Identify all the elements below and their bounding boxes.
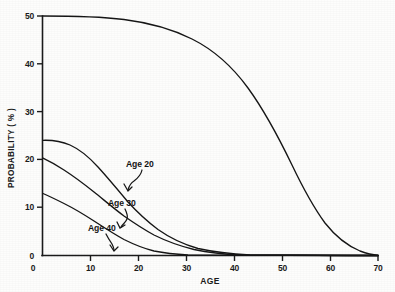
age-40-leader-line xyxy=(106,234,114,250)
y-axis-tick-labels: 50 40 30 20 10 0 xyxy=(25,11,35,261)
curve-unlabeled-top xyxy=(43,16,378,255)
chart-figure: 50 40 30 20 10 0 0 10 20 30 40 50 60 70 xyxy=(0,0,395,292)
x-tick-label-40: 40 xyxy=(230,263,240,273)
x-tick-label-60: 60 xyxy=(326,263,336,273)
x-tick-label-30: 30 xyxy=(182,263,192,273)
x-tick-label-70: 70 xyxy=(373,263,383,273)
x-axis-title: AGE xyxy=(200,276,220,286)
y-tick-label-30: 30 xyxy=(25,107,35,117)
x-axis-ticks xyxy=(91,256,379,262)
y-tick-label-50: 50 xyxy=(25,11,35,21)
data-curves xyxy=(43,16,378,256)
age-20-leader-line xyxy=(128,170,142,190)
curve-age-30 xyxy=(43,158,378,255)
y-axis-ticks xyxy=(37,16,43,207)
series-label-age-30: Age 30 xyxy=(108,198,136,208)
x-tick-label-0: 0 xyxy=(31,263,36,273)
x-tick-label-20: 20 xyxy=(134,263,144,273)
y-tick-label-40: 40 xyxy=(25,59,35,69)
x-axis-tick-labels: 0 10 20 30 40 50 60 70 xyxy=(31,263,383,273)
y-tick-label-0: 0 xyxy=(29,251,34,261)
curve-age-20 xyxy=(43,140,378,255)
series-label-age-40: Age 40 xyxy=(88,223,116,233)
y-tick-label-20: 20 xyxy=(25,154,35,164)
x-tick-label-50: 50 xyxy=(278,263,288,273)
y-tick-label-10: 10 xyxy=(25,202,35,212)
series-label-age-20: Age 20 xyxy=(126,159,154,169)
y-axis-title: PROBABILITY ( % ) xyxy=(7,108,16,188)
probability-by-age-line-chart: 50 40 30 20 10 0 0 10 20 30 40 50 60 70 xyxy=(0,0,395,292)
x-tick-label-10: 10 xyxy=(86,263,96,273)
